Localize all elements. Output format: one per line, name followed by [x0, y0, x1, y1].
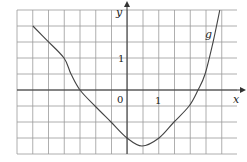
x-axis-label: x [233, 93, 240, 106]
curve-label: g [205, 28, 212, 41]
y-tick-label: 1 [118, 53, 124, 64]
origin-label: 0 [117, 94, 123, 105]
y-axis-label: y [115, 6, 123, 19]
x-axis-arrow-icon [240, 87, 246, 93]
axes [17, 1, 246, 154]
y-axis-arrow-icon [124, 1, 130, 7]
graph-of-g: x y 0 1 1 g [0, 0, 247, 162]
curve-g [33, 10, 220, 146]
x-tick-label: 1 [155, 95, 161, 106]
